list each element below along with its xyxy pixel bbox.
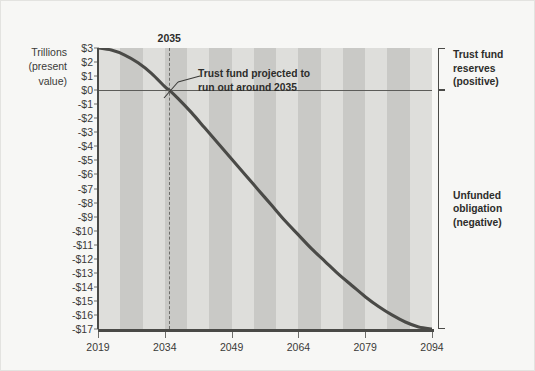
y-axis-title-line-1: Trillions (5, 45, 67, 59)
y-tick-label: -$9 (63, 211, 93, 223)
unfunded-line-3: (negative) (453, 216, 502, 230)
x-tick-label: 2094 (420, 341, 443, 353)
y-tick-label: -$7 (63, 183, 93, 195)
reserves-line-3: (positive) (453, 75, 503, 89)
reserves-line-2: reserves (453, 62, 503, 76)
y-tick-label: -$2 (63, 112, 93, 124)
x-tick-label: 2019 (86, 341, 109, 353)
y-tick-label: $2 (63, 56, 93, 68)
callout-line-2: run out around 2035 (198, 81, 310, 95)
callout-line-1: Trust fund projected to (198, 67, 310, 81)
reserves-line-1: Trust fund (453, 48, 503, 62)
unfunded-line-1: Unfunded (453, 189, 502, 203)
y-axis-title-line-3: value) (5, 74, 67, 88)
y-tick-label: -$12 (63, 253, 93, 265)
x-tick-label: 2064 (287, 341, 310, 353)
y-tick-label: $0 (63, 84, 93, 96)
y-tick-label: -$5 (63, 154, 93, 166)
y-tick-label: -$13 (63, 267, 93, 279)
y-tick-label: $1 (63, 70, 93, 82)
y-axis-line (97, 48, 99, 329)
x-axis-line (98, 329, 434, 332)
y-axis-title: Trillions (present value) (5, 45, 67, 88)
x-tick-label: 2034 (153, 341, 176, 353)
y-tick-label: -$14 (63, 281, 93, 293)
x-tick-mark (98, 332, 99, 338)
y-tick-label: -$11 (63, 239, 93, 251)
y-tick-label: -$15 (63, 295, 93, 307)
y-tick-label: -$8 (63, 197, 93, 209)
trust-fund-reserves-label: Trust fund reserves (positive) (453, 48, 503, 89)
chart-figure: Trillions (present value) $3$2$1$0-$1-$2… (0, 0, 535, 371)
y-axis-title-line-2: (present (5, 59, 67, 73)
unfunded-line-2: obligation (453, 202, 502, 216)
y-tick-label: -$3 (63, 126, 93, 138)
y-axis-tick-labels: $3$2$1$0-$1-$2-$3-$4-$5-$6-$7-$8-$9-$10-… (63, 1, 93, 371)
depletion-year-label: 2035 (158, 32, 181, 44)
depletion-callout-text: Trust fund projected to run out around 2… (198, 67, 310, 95)
x-tick-mark (298, 332, 299, 338)
y-tick-label: -$10 (63, 225, 93, 237)
callout-leader-line (164, 73, 200, 99)
unfunded-obligation-bracket (438, 90, 445, 329)
y-tick-label: -$4 (63, 140, 93, 152)
y-tick-label: -$17 (63, 323, 93, 335)
x-tick-label: 2049 (220, 341, 243, 353)
trust-fund-reserves-bracket (438, 48, 445, 90)
x-tick-label: 2079 (354, 341, 377, 353)
y-tick-label: -$1 (63, 98, 93, 110)
x-tick-mark (365, 332, 366, 338)
y-tick-label: -$16 (63, 309, 93, 321)
x-tick-mark (165, 332, 166, 338)
y-tick-label: $3 (63, 42, 93, 54)
x-tick-mark (232, 332, 233, 338)
x-tick-mark (432, 332, 433, 338)
unfunded-obligation-label: Unfunded obligation (negative) (453, 189, 502, 230)
y-tick-label: -$6 (63, 168, 93, 180)
